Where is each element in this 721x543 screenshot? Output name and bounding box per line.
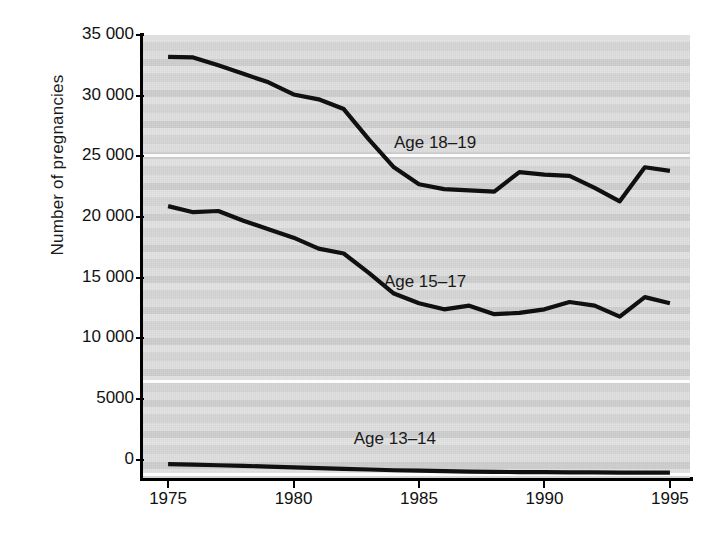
series-lines [143, 35, 690, 478]
line-age-18-19 [168, 57, 670, 201]
y-tick-label: 15 000 [44, 267, 134, 287]
y-tick-mark [136, 155, 144, 157]
y-tick-mark [136, 459, 144, 461]
y-tick-mark [136, 337, 144, 339]
x-tick-label: 1985 [379, 489, 459, 509]
x-tick-mark [293, 479, 295, 488]
x-tick-mark [543, 479, 545, 488]
series-label-age-13-14: Age 13–14 [354, 429, 436, 449]
y-tick-mark [136, 34, 144, 36]
y-tick-mark [136, 277, 144, 279]
x-tick-label: 1990 [504, 489, 584, 509]
series-label-age-15-17: Age 15–17 [384, 272, 466, 292]
x-tick-label: 1975 [128, 489, 208, 509]
y-tick-label: 10 000 [44, 327, 134, 347]
y-axis-tick-labels: 0500010 00015 00020 00025 00030 00035 00… [30, 0, 134, 543]
chart-figure: Number of pregnancies 0500010 00015 0002… [0, 0, 721, 543]
y-tick-mark [136, 398, 144, 400]
y-tick-label: 25 000 [44, 145, 134, 165]
series-label-age-18-19: Age 18–19 [394, 133, 476, 153]
y-tick-label: 20 000 [44, 206, 134, 226]
x-tick-label: 1995 [630, 489, 710, 509]
x-tick-mark [418, 479, 420, 488]
line-age-15-17 [168, 206, 670, 316]
y-tick-mark [136, 95, 144, 97]
x-tick-label: 1980 [254, 489, 334, 509]
y-tick-label: 35 000 [44, 24, 134, 44]
line-age-13-14 [168, 464, 670, 473]
x-tick-mark [167, 479, 169, 488]
plot-area [143, 35, 690, 478]
x-tick-mark [669, 479, 671, 488]
y-tick-label: 30 000 [44, 85, 134, 105]
y-tick-mark [136, 216, 144, 218]
y-tick-label: 5000 [44, 388, 134, 408]
y-tick-label: 0 [44, 449, 134, 469]
